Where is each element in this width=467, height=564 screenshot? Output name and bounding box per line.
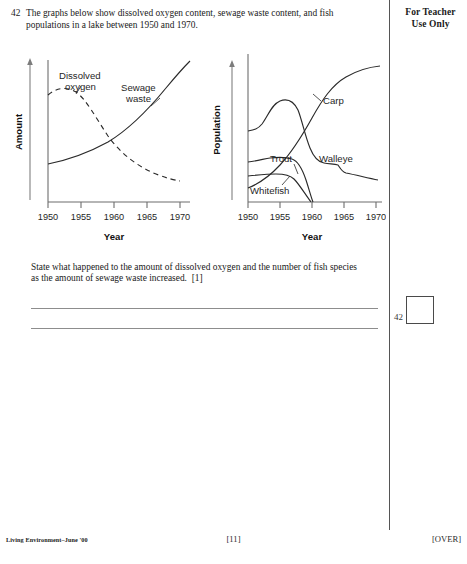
- label-carp-text: Carp: [323, 95, 344, 106]
- chart2-xtick-1960: 1960: [302, 212, 322, 222]
- chart1-xtick-1970: 1970: [170, 212, 190, 222]
- chart2-x-ticks: [248, 202, 376, 208]
- prompt-line-2: as the amount of sewage waste increased.…: [31, 273, 379, 284]
- curve-carp: [248, 66, 380, 188]
- prompt-line-1: State what happened to the amount of dis…: [31, 262, 379, 273]
- curve-dissolved-oxygen: [48, 88, 180, 181]
- question-stem: 42 The graphs below show dissolved oxyge…: [26, 8, 378, 31]
- amount-axis-arrow: [27, 58, 33, 200]
- label-whitefish-text: Whitefish: [250, 185, 289, 196]
- chart2-xtick-1950: 1950: [238, 212, 258, 222]
- curve-walleye: [248, 100, 378, 180]
- for-teacher-use-only-header: For Teacher Use Only: [394, 6, 467, 30]
- answer-line-1[interactable]: [31, 308, 378, 309]
- label-sewage-waste-line2: waste: [125, 93, 151, 104]
- teacher-score-row: 42: [394, 296, 467, 324]
- chart1-xtick-1950: 1950: [38, 212, 58, 222]
- label-dissolved-oxygen-line1: Dissolved: [59, 70, 101, 81]
- chart1-x-ticks: [48, 202, 180, 208]
- footer-over-label: [OVER]: [432, 534, 461, 544]
- label-walleye: Walleye: [319, 153, 353, 164]
- chart1-xtick-1965: 1965: [137, 212, 157, 222]
- population-axis-arrow: [229, 60, 235, 200]
- charts-container: 1950 1955 1960 1965 1970 Amount Year Dis…: [0, 52, 389, 250]
- teacher-header-line-2: Use Only: [394, 18, 467, 30]
- teacher-column-divider: [389, 0, 390, 530]
- label-carp: Carp: [313, 94, 344, 106]
- teacher-score-question-label: 42: [394, 298, 403, 322]
- chart1-y-axis-label: Amount: [13, 113, 24, 150]
- chart2-xtick-1965: 1965: [334, 212, 354, 222]
- chart1-xtick-1955: 1955: [71, 212, 91, 222]
- chart2-y-axis-label: Population: [211, 105, 222, 155]
- question-number: 42: [11, 8, 20, 20]
- chart-fish-populations: 1950 1955 1960 1965 1970 Population Year…: [206, 52, 386, 248]
- question-stem-line-1: The graphs below show dissolved oxygen c…: [26, 8, 378, 20]
- chart2-xtick-1970: 1970: [366, 212, 386, 222]
- chart2-x-axis-label: Year: [302, 231, 323, 242]
- prompt-line-2-text: as the amount of sewage waste increased.: [31, 273, 187, 283]
- label-dissolved-oxygen: Dissolved oxygen: [59, 70, 101, 94]
- chart-dissolved-oxygen-sewage: 1950 1955 1960 1965 1970 Amount Year Dis…: [8, 52, 198, 248]
- footer-page-number: [11]: [0, 534, 467, 544]
- answer-line-2[interactable]: [31, 328, 378, 329]
- label-walleye-text: Walleye: [319, 153, 353, 164]
- teacher-score-box[interactable]: [406, 296, 434, 324]
- chart2-xtick-1955: 1955: [270, 212, 290, 222]
- chart1-x-axis-label: Year: [104, 231, 125, 242]
- chart1-xtick-1960: 1960: [104, 212, 124, 222]
- teacher-header-line-1: For Teacher: [394, 6, 467, 18]
- prompt-credit: [1]: [192, 273, 203, 283]
- label-sewage-waste-line1: Sewage: [121, 82, 156, 93]
- question-stem-line-2: populations in a lake between 1950 and 1…: [26, 20, 378, 32]
- label-whitefish: Whitefish: [250, 176, 290, 196]
- label-trout-text: Trout: [270, 153, 292, 164]
- question-prompt: State what happened to the amount of dis…: [31, 262, 379, 285]
